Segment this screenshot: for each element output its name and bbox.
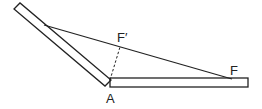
label-f-prime: F′ — [117, 30, 128, 45]
label-f: F — [230, 63, 238, 78]
tilted-bar — [14, 3, 111, 86]
folded-beam-diagram: F′ A F — [0, 0, 262, 109]
horizontal-bar — [110, 78, 248, 87]
line-to-f — [44, 25, 232, 79]
label-a: A — [106, 91, 115, 106]
dashed-line-a-to-f-prime — [110, 47, 120, 80]
